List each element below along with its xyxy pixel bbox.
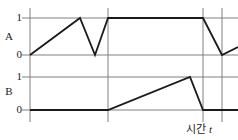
vertical-gridlines [30, 8, 222, 122]
signal-a-waveform [30, 18, 238, 55]
x-axis-label-variable: t [206, 123, 212, 135]
plot-canvas [0, 0, 238, 140]
signal-b-waveform [30, 77, 238, 110]
signal-a-name-label: A [2, 31, 16, 42]
signal-b-name-label: B [2, 86, 16, 97]
x-axis-label-text: 시간 [186, 123, 206, 136]
panel-b-tick-label-high: 1 [8, 71, 22, 82]
panel-a-tick-label-low: 0 [8, 49, 22, 60]
panel-a-tick-label-high: 1 [8, 12, 22, 23]
horizontal-gridlines [22, 18, 238, 110]
timing-diagram-figure: 1 0 1 0 A B 시간t [0, 0, 238, 140]
panel-b-tick-label-low: 0 [8, 104, 22, 115]
x-axis-label: 시간t [186, 124, 212, 135]
